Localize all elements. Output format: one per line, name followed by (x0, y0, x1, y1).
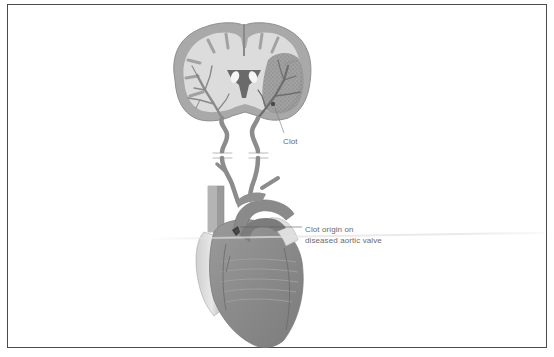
anatomy-illustration (0, 0, 554, 357)
clot-origin-label-line2: diseased aortic valve (305, 235, 382, 246)
clot-origin-label: Clot origin on diseased aortic valve (305, 224, 382, 246)
brain (174, 23, 311, 133)
heart (196, 186, 303, 347)
clot-label: Clot (283, 136, 298, 147)
clot-origin-label-line1: Clot origin on (305, 224, 382, 235)
